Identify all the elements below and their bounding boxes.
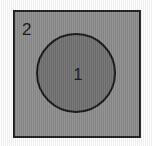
- outer-square-label: 2: [22, 21, 31, 38]
- inner-circle-label: 1: [38, 35, 118, 115]
- outer-square-region: 2 1: [13, 10, 141, 138]
- diagram-canvas: 2 1: [0, 0, 152, 146]
- inner-circle-region: 1: [36, 33, 116, 113]
